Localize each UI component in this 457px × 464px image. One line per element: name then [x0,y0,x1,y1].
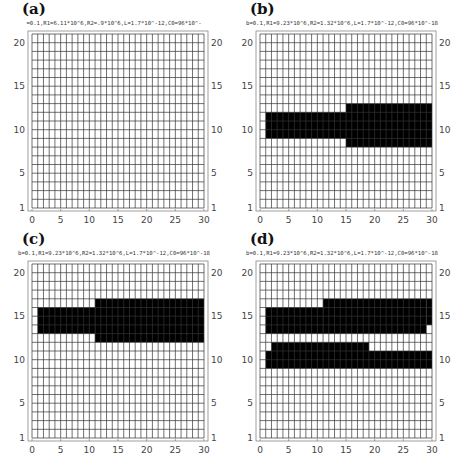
y-tick-label-left: 5 [19,398,25,408]
y-tick-label-left: 20 [242,268,254,278]
x-tick-label: 25 [170,445,181,455]
x-tick-label: 20 [141,215,153,225]
x-tick-label: 30 [198,215,210,225]
y-tick-label-right: 1 [211,433,217,443]
panel-d: (d) b=0.1,R1=9.23*10^6,R2=1.32*10^6,L=1.… [228,230,456,462]
y-tick-label-left: 20 [14,38,26,48]
grid-plot: 0510152025301155101015152020 [228,0,456,232]
y-tick-label-right: 10 [211,125,223,135]
x-tick-label: 5 [286,445,292,455]
y-tick-label-left: 10 [242,355,254,365]
y-tick-label-right: 20 [211,38,223,48]
y-tick-label-left: 5 [19,168,25,178]
y-tick-label-left: 15 [14,81,25,91]
y-tick-label-right: 20 [439,38,451,48]
x-tick-label: 0 [29,445,35,455]
y-tick-label-right: 5 [439,168,445,178]
y-tick-label-left: 1 [247,433,253,443]
x-tick-label: 15 [112,215,123,225]
x-tick-label: 25 [398,445,409,455]
active-region [271,342,368,351]
x-tick-label: 20 [369,215,381,225]
x-tick-label: 0 [29,215,35,225]
y-tick-label-right: 5 [211,398,217,408]
y-tick-label-right: 1 [439,433,445,443]
x-tick-label: 10 [312,445,324,455]
x-tick-label: 10 [312,215,324,225]
x-tick-label: 25 [170,215,181,225]
x-tick-label: 15 [340,215,351,225]
x-tick-label: 30 [426,215,438,225]
y-tick-label-left: 5 [247,398,253,408]
active-region [95,299,204,343]
y-tick-label-left: 1 [247,203,253,213]
x-tick-label: 5 [286,215,292,225]
y-tick-label-left: 15 [242,81,253,91]
y-tick-label-right: 15 [439,311,450,321]
y-tick-label-left: 5 [247,168,253,178]
panel-c: (c) b=0.1,R1=9.23*10^6,R2=1.32*10^6,L=1.… [0,230,228,462]
active-region [426,299,432,325]
y-tick-label-left: 1 [19,203,25,213]
y-tick-label-left: 10 [14,355,26,365]
y-tick-label-right: 15 [211,311,222,321]
x-tick-label: 25 [398,215,409,225]
y-tick-label-right: 10 [439,125,451,135]
x-tick-label: 30 [426,445,438,455]
y-tick-label-right: 15 [211,81,222,91]
x-tick-label: 0 [257,445,263,455]
panel-a: (a) =0.1,R1=6.11*10^6,R2=.9*10^6,L=1.7*1… [0,0,228,232]
y-tick-label-left: 20 [14,268,26,278]
y-tick-label-right: 1 [211,203,217,213]
y-tick-label-left: 15 [242,311,253,321]
y-tick-label-left: 10 [242,125,254,135]
y-tick-label-right: 5 [211,168,217,178]
x-tick-label: 0 [257,215,263,225]
x-tick-label: 20 [369,445,381,455]
x-tick-label: 5 [58,215,64,225]
grid-plot: 0510152025301155101015152020 [0,0,228,232]
y-tick-label-right: 20 [439,268,451,278]
y-tick-label-left: 15 [14,311,25,321]
y-tick-label-left: 10 [14,125,26,135]
y-tick-label-left: 1 [19,433,25,443]
grid-plot: 0510152025301155101015152020 [0,230,228,462]
y-tick-label-left: 20 [242,38,254,48]
y-tick-label-right: 1 [439,203,445,213]
x-tick-label: 15 [112,445,123,455]
x-tick-label: 30 [198,445,210,455]
active-region [346,104,432,148]
x-tick-label: 10 [84,445,96,455]
y-tick-label-right: 10 [211,355,223,365]
y-tick-label-right: 10 [439,355,451,365]
y-tick-label-right: 5 [439,398,445,408]
x-tick-label: 5 [58,445,64,455]
panel-b: (b) b=0.1,R1=9.23*10^6,R2=1.32*10^6,L=1.… [228,0,456,232]
x-tick-label: 20 [141,445,153,455]
y-tick-label-right: 20 [211,268,223,278]
grid-plot: 0510152025301155101015152020 [228,230,456,462]
x-tick-label: 10 [84,215,96,225]
y-tick-label-right: 15 [439,81,450,91]
x-tick-label: 15 [340,445,351,455]
